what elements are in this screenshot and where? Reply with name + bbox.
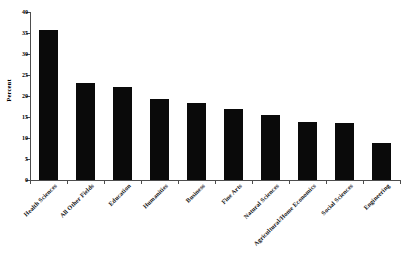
bar bbox=[261, 115, 280, 180]
plot-area: 0510152025303540 bbox=[30, 12, 400, 180]
bars-layer bbox=[30, 12, 400, 180]
y-tick-label: 5 bbox=[25, 156, 28, 162]
y-tick-label: 0 bbox=[25, 177, 28, 183]
y-axis-title: Percent bbox=[0, 0, 16, 180]
bar-chart: Percent 0510152025303540 Health Sciences… bbox=[0, 0, 416, 271]
x-tick-mark bbox=[400, 180, 401, 184]
bar bbox=[113, 87, 132, 180]
y-tick-label: 25 bbox=[22, 72, 28, 78]
x-tick-label: All Other Fields bbox=[58, 182, 95, 219]
x-tick-label: Fine Arts bbox=[219, 182, 242, 205]
bar bbox=[76, 83, 95, 180]
bar bbox=[298, 122, 317, 180]
bar bbox=[224, 109, 243, 180]
y-tick-label: 15 bbox=[22, 114, 28, 120]
y-tick-label: 40 bbox=[22, 9, 28, 15]
bar bbox=[335, 123, 354, 180]
bar bbox=[150, 99, 169, 180]
x-tick-label: Natural Sciences bbox=[242, 182, 280, 220]
x-tick-label: Social Sciences bbox=[319, 182, 353, 216]
x-tick-label: Health Sciences bbox=[22, 182, 58, 218]
y-tick-label: 30 bbox=[22, 51, 28, 57]
x-tick-label: Business bbox=[184, 182, 206, 204]
y-tick-label: 20 bbox=[22, 93, 28, 99]
x-tick-label: Engineering bbox=[361, 182, 390, 211]
y-tick-label: 35 bbox=[22, 30, 28, 36]
x-tick-label: Education bbox=[106, 182, 131, 207]
y-tick-label: 10 bbox=[22, 135, 28, 141]
bar bbox=[187, 103, 206, 180]
x-axis-labels: Health SciencesAll Other FieldsEducation… bbox=[30, 182, 400, 271]
bar bbox=[372, 143, 391, 180]
y-axis-title-text: Percent bbox=[5, 79, 12, 102]
x-tick-label: Humanities bbox=[141, 182, 169, 210]
bar bbox=[39, 30, 58, 180]
x-tick-label: Agricultural/Home Economics bbox=[252, 182, 317, 247]
